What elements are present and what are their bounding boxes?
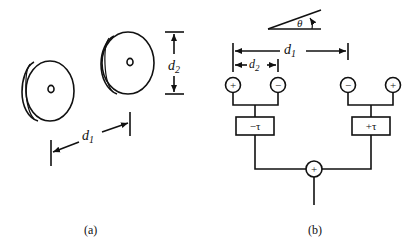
negative-delay-label: −τ [250, 120, 261, 132]
right-disc [101, 32, 154, 94]
left-disc-center-hole [48, 85, 54, 92]
left-disc [22, 61, 74, 121]
summing-junction: + [255, 135, 371, 205]
svg-text:−: − [345, 79, 351, 91]
right-electrode-pair: − + +τ [341, 78, 401, 136]
diameter-dimension-a: d2 [165, 32, 184, 94]
positive-delay-label: +τ [366, 120, 377, 132]
d1-label-b: d1 [284, 42, 296, 59]
diameter-dimension-b: d2 [235, 57, 278, 73]
left-electrode-pair: + − −τ [226, 78, 286, 136]
right-disc-center-hole [127, 58, 133, 65]
svg-text:+: + [230, 79, 236, 91]
d2-label-a: d2 [168, 58, 180, 75]
caption-a: (a) [84, 223, 97, 237]
spacing-dimension-a: d1 [51, 112, 130, 166]
svg-text:+: + [311, 163, 317, 175]
svg-text:+: + [390, 79, 396, 91]
d1-label-a: d1 [82, 128, 94, 145]
angle-indicator: θ [268, 10, 321, 29]
svg-text:−: − [275, 79, 281, 91]
diagram-canvas: d2 d1 (a) θ d1 [0, 0, 417, 250]
caption-b: (b) [308, 223, 322, 237]
panel-b: θ d1 d2 + − [226, 10, 401, 237]
panel-a: d2 d1 (a) [22, 32, 184, 237]
d2-label-b: d2 [249, 57, 260, 73]
theta-label: θ [297, 17, 303, 29]
